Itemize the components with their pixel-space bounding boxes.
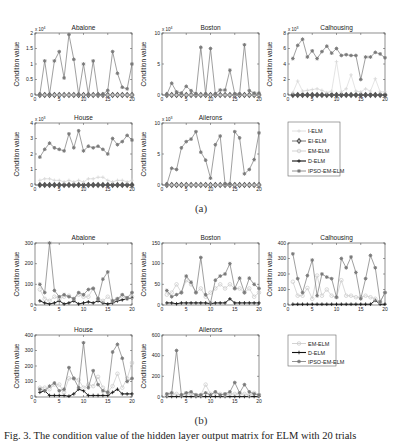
x-tick-label: 0 [287,96,290,102]
axis-exponent: x 103 [288,26,299,32]
y-tick-label: 200 [25,260,34,266]
x-tick-label: 0 [287,306,290,312]
axes-box [162,335,259,397]
legend-label: D-ELM [308,158,326,164]
x-tick-label: 0 [161,96,164,102]
subfigure-label-b: (b) [0,414,402,426]
chart-title: Boston [200,234,221,241]
y-axis-label: Condition value [140,343,147,388]
x-tick-label: 20 [256,306,262,312]
x-tick-label: 20 [256,398,262,404]
legend-label: IPSO-EM-ELM [308,168,345,174]
y-tick-label: 6 [283,45,286,51]
y-axis-label: Condition value [13,41,20,86]
y-tick-label: 100 [152,260,161,266]
exponent-power: 3 [171,116,173,120]
chart-title: Abalone [72,234,96,241]
y-tick-label: 200 [278,271,287,277]
chart-b-calhousing: CalhousingCondition value010020030040005… [266,234,388,312]
x-tick-label: 10 [81,398,87,404]
x-tick-label: 10 [208,306,214,312]
exponent-power: 4 [44,26,46,30]
y-tick-label: 400 [25,332,34,338]
axis-exponent: x 103 [162,116,173,122]
x-tick-label: 0 [161,306,164,312]
y-tick-label: 50 [154,281,160,287]
legend-label: EI-ELM [308,138,327,144]
legend-label: I-ELM [308,128,323,134]
x-tick-label: 5 [58,398,61,404]
y-tick-label: 0.5 [26,76,33,82]
chart-a-house: HouseCondition valuex 1030123405101520 [13,114,135,192]
x-tick-label: 15 [105,306,111,312]
y-tick-label: 1 [30,166,33,172]
x-tick-label: 5 [185,306,188,312]
chart-a-ailerons: AileronsCondition valuex 103051005101520 [140,114,262,192]
chart-b-ailerons: AileronsCondition value02004006000510152… [140,326,262,404]
y-tick-label: 200 [152,373,161,379]
x-tick-label: 15 [232,306,238,312]
x-tick-label: 0 [161,398,164,404]
chart-title: House [74,114,93,121]
y-tick-label: 3 [30,135,33,141]
x-tick-label: 0 [34,186,37,192]
y-tick-label: 400 [278,240,287,246]
y-tick-label: 100 [278,286,287,292]
y-axis-label: Condition value [266,41,273,86]
x-tick-label: 0 [34,398,37,404]
y-tick-label: 2 [283,76,286,82]
figure-caption: Fig. 3. The condition value of the hidde… [4,430,402,441]
y-tick-label: 4 [283,61,286,67]
chart-title: Ailerons [199,114,223,121]
y-tick-label: 1.5 [26,45,33,51]
x-tick-label: 15 [358,306,364,312]
x-tick-label: 15 [232,398,238,404]
x-tick-label: 10 [81,306,87,312]
chart-title: Abalone [72,24,96,31]
axes-box [35,123,132,185]
figure-canvas: AbaloneCondition valuex 10400.511.520510… [0,0,402,446]
y-axis-label: Condition value [13,343,20,388]
axes-box [162,33,259,95]
y-tick-label: 5 [157,61,160,67]
subfigure-label-a: (a) [0,202,402,214]
x-tick-label: 20 [382,306,388,312]
x-tick-label: 20 [129,306,135,312]
chart-a-boston: BostonCondition valuex 104051005101520 [140,24,262,102]
legend-label: D-ELM [308,350,326,356]
legend-label: EM-ELM [308,341,330,347]
chart-title: House [74,326,93,333]
axis-exponent: x 104 [35,26,46,32]
y-axis-label: Condition value [266,251,273,296]
y-tick-label: 2 [30,151,33,157]
y-tick-label: 300 [25,240,34,246]
y-tick-label: 400 [152,352,161,358]
legend-panel-b: EM-ELMD-ELMIPSO-EM-ELM [288,335,345,366]
exponent-power: 3 [44,116,46,120]
y-tick-label: 4 [30,120,33,126]
y-axis-label: Condition value [13,251,20,296]
axis-exponent: x 103 [35,116,46,122]
y-tick-label: 600 [152,332,161,338]
x-tick-label: 20 [129,398,135,404]
y-tick-label: 150 [152,240,161,246]
exponent-power: 3 [297,26,299,30]
y-tick-label: 300 [278,255,287,261]
x-tick-label: 5 [311,306,314,312]
y-axis-label: Condition value [140,41,147,86]
y-tick-label: 10 [154,30,160,36]
axis-exponent: x 104 [162,26,173,32]
y-tick-label: 1 [30,61,33,67]
x-tick-label: 5 [58,306,61,312]
chart-title: Calhousing [320,24,353,32]
x-tick-label: 0 [34,306,37,312]
chart-b-house: HouseCondition value01002003004000510152… [13,326,135,404]
chart-b-boston: BostonCondition value05010015005101520 [140,234,262,312]
chart-title: Ailerons [199,326,223,333]
chart-b-abalone: AbaloneCondition value010020030005101520 [13,234,135,312]
x-tick-label: 5 [185,398,188,404]
chart-a-abalone: AbaloneCondition valuex 10400.511.520510… [13,24,135,102]
legend-label: EM-ELM [308,148,330,154]
chart-title: Calhousing [320,234,353,242]
x-tick-label: 15 [105,398,111,404]
